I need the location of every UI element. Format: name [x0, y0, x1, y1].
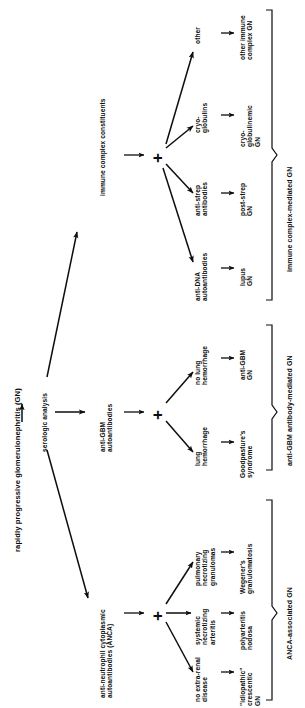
node-anti-gbm-autoantibodies[interactable]: anti-GBMautoantibodies — [99, 404, 114, 452]
node-serologic-analysis[interactable]: serologic analysis — [41, 393, 48, 452]
text-line: autoantibodies — [106, 404, 113, 452]
text-line: disease — [201, 657, 208, 702]
text-line: autoantibodies (ANCA) — [106, 609, 113, 698]
finding-anti-dna-autoantibodies[interactable]: anti-DNAautoantibodies — [194, 253, 209, 301]
finding-lung-hemorrhage[interactable]: lunghemorrhage — [194, 427, 209, 466]
text-line: GN — [254, 667, 261, 706]
text-line: complex GN — [246, 15, 253, 60]
edge-plus-to-noextrarenal — [166, 622, 193, 672]
plus-immune-complex: + — [149, 153, 166, 163]
finding-cryoglobulins[interactable]: cryo-globulins — [194, 103, 209, 133]
node-anca-autoantibodies[interactable]: anti-neutrophil cytoplasmicautoantibodie… — [99, 609, 114, 698]
text-line: granulomas — [209, 548, 216, 586]
text-line: Wegener's — [239, 544, 246, 595]
text-line: autoantibodies — [201, 253, 208, 301]
text-line: arteritis — [209, 609, 216, 645]
edge-plus-to-antistrep — [166, 164, 193, 193]
brace-anti-gbm — [266, 325, 277, 470]
diagnosis-goodpastures-syndrome[interactable]: Goodpasture'ssyndrome — [239, 430, 254, 478]
edge-plus-to-other — [166, 52, 193, 144]
text-line: syndrome — [246, 430, 253, 478]
text-line: crescentic — [246, 667, 253, 706]
brace-anca — [266, 500, 277, 700]
group-label-anca-associated-gn: ANCA-associated GN — [286, 587, 294, 660]
text-line: necrotizing — [201, 609, 208, 645]
text-line: anti-neutrophil cytoplasmic — [99, 609, 106, 698]
diagnosis-wegeners-granulomatosis[interactable]: Wegener'sgranulomatosis — [239, 544, 254, 595]
finding-no-extra-renal-disease[interactable]: no extra-renaldisease — [194, 657, 209, 702]
diagnosis-cryoglobulinemic-gn[interactable]: cryo-globulinemicGN — [239, 105, 261, 147]
text-line: lupus — [239, 268, 246, 286]
text-line: anti-GBM — [239, 350, 246, 380]
edge-plus-to-antidna — [163, 168, 193, 262]
text-line: necrotizing — [201, 548, 208, 586]
text-line: polyarteritis — [239, 611, 246, 650]
text-line: "idiopathic" — [239, 667, 246, 706]
finding-no-lung-hemorrhage[interactable]: no lunghemorrhage — [194, 346, 209, 385]
finding-other[interactable]: other — [194, 27, 201, 44]
flowchart-canvas: rapidly progressive glomerulonephritis (… — [0, 0, 305, 708]
page-title: rapidly progressive glomerulonephritis (… — [14, 388, 23, 552]
text-line: GN — [246, 183, 253, 216]
text-line: other — [194, 27, 201, 44]
edge-root-to-immune-complex — [47, 232, 77, 377]
diagnosis-anti-gbm-gn[interactable]: anti-GBMGN — [239, 350, 254, 380]
diagnosis-idiopathic-crescentic-gn[interactable]: "idiopathic"crescenticGN — [239, 667, 261, 706]
edge-plus-to-lung — [166, 421, 193, 452]
text-line: no lung — [194, 346, 201, 385]
text-line: GN — [246, 268, 253, 286]
text-line: pulmonary — [194, 548, 201, 586]
group-label-immune-complex-mediated-gn: immune complex-mediated GN — [286, 167, 294, 272]
text-line: globulinemic — [246, 105, 253, 147]
text-line: no extra-renal — [194, 657, 201, 702]
text-line: nodosa — [246, 611, 253, 650]
text-line: antibodies — [201, 182, 208, 216]
node-immune-complex-constituents[interactable]: immune complex constituents — [99, 98, 106, 196]
edge-root-to-anca — [47, 450, 88, 598]
plus-anca: + — [149, 611, 166, 621]
text-line: lung — [194, 427, 201, 466]
brace-immune-complex — [266, 10, 277, 300]
text-line: other immune — [239, 15, 246, 60]
text-line: Goodpasture's — [239, 430, 246, 478]
text-line: cryo- — [194, 103, 201, 133]
text-line: globulins — [201, 103, 208, 133]
text-line: immune complex constituents — [99, 98, 106, 196]
group-label-anti-gbm-antibody-mediated-gn: anti-GBM antibody-mediated GN — [286, 355, 294, 466]
plus-anti-gbm: + — [149, 410, 166, 420]
text-line: hemorrhage — [201, 427, 208, 466]
edge-plus-to-nolung — [166, 372, 193, 403]
diagnosis-lupus-gn[interactable]: lupusGN — [239, 268, 254, 286]
text-line: GN — [254, 105, 261, 147]
finding-pulmonary-necrotizing-granulomas[interactable]: pulmonarynecrotizinggranulomas — [194, 548, 216, 586]
text-line: granulomatosis — [246, 544, 253, 595]
text-line: post-strep — [239, 183, 246, 216]
finding-systemic-necrotizing-arteritis[interactable]: systemicnecrotizingarteritis — [194, 609, 216, 645]
text-line: systemic — [194, 609, 201, 645]
text-line: anti-strep — [194, 182, 201, 216]
edge-plus-to-cryoglobulins — [166, 126, 193, 148]
edge-plus-to-pulmonary — [166, 562, 193, 604]
diagnosis-post-strep-gn[interactable]: post-strepGN — [239, 183, 254, 216]
diagnosis-other-immune-complex-gn[interactable]: other immunecomplex GN — [239, 15, 254, 60]
text-line: anti-DNA — [194, 253, 201, 301]
text-line: cryo- — [239, 105, 246, 147]
text-line: anti-GBM — [99, 404, 106, 452]
text-line: hemorrhage — [201, 346, 208, 385]
diagnosis-polyarteritis-nodosa[interactable]: polyarteritisnodosa — [239, 611, 254, 650]
finding-anti-strep-antibodies[interactable]: anti-strepantibodies — [194, 182, 209, 216]
text-line: GN — [246, 350, 253, 380]
